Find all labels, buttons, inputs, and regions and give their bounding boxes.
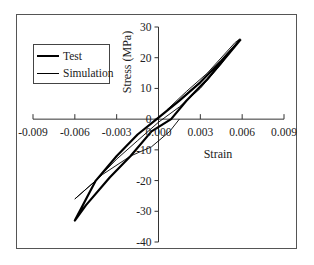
y-tick-label: 20 bbox=[140, 52, 152, 64]
y-tick-label: 30 bbox=[140, 21, 152, 33]
y-tick-label: -30 bbox=[136, 205, 152, 217]
x-tick-label: 0.009 bbox=[271, 126, 297, 138]
y-tick-label: -20 bbox=[136, 175, 152, 187]
x-tick-label: 0.000 bbox=[146, 126, 172, 138]
x-tick-label: 0.003 bbox=[187, 126, 213, 138]
legend-label-test: Test bbox=[63, 50, 82, 62]
legend-item-test: Test bbox=[37, 49, 82, 63]
stress-strain-plot: -0.009-0.006-0.0030.0000.0030.0060.00930… bbox=[0, 0, 314, 265]
y-axis-label: Stress (MPa) bbox=[120, 31, 134, 93]
x-tick-label: -0.006 bbox=[60, 126, 90, 138]
x-tick-label: 0.006 bbox=[229, 126, 255, 138]
y-tick-label: -10 bbox=[136, 144, 152, 156]
legend-label-simulation: Simulation bbox=[63, 67, 113, 79]
x-tick-label: -0.003 bbox=[102, 126, 132, 138]
legend: Test Simulation bbox=[33, 44, 110, 84]
y-tick-label: 0 bbox=[146, 113, 152, 125]
legend-swatch-test bbox=[37, 55, 59, 58]
legend-item-simulation: Simulation bbox=[37, 66, 113, 80]
y-tick-label: -40 bbox=[136, 236, 152, 248]
x-axis-label: Strain bbox=[204, 147, 233, 161]
legend-swatch-simulation bbox=[37, 73, 59, 74]
x-tick-label: -0.009 bbox=[18, 126, 48, 138]
y-tick-label: 10 bbox=[140, 82, 152, 94]
